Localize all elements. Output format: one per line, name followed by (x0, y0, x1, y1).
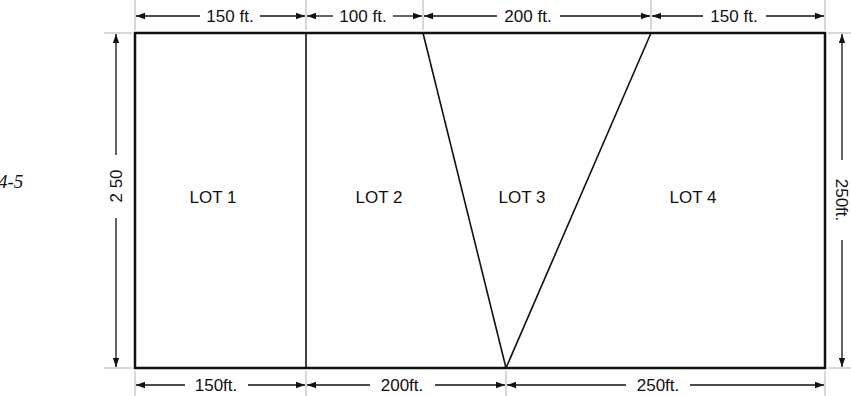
lot-3-label: LOT 3 (499, 188, 546, 207)
bottom-dimension-lot3-4: 250ft. (637, 376, 680, 395)
parcel-outline (135, 33, 825, 368)
lot-divider-2-3 (423, 33, 506, 368)
top-dimension-lot4: 150 ft. (710, 7, 757, 26)
figure-label: 4-5 (0, 171, 23, 192)
lot-plan-diagram: LOT 1 LOT 2 LOT 3 LOT 4 4-5 150 ft. 100 … (0, 0, 851, 396)
lot-2-label: LOT 2 (356, 188, 403, 207)
lot-1-label: LOT 1 (190, 188, 237, 207)
right-dimension: 250ft. (832, 179, 851, 222)
bottom-dimension-lot1: 150ft. (195, 376, 238, 395)
left-dimension: 2 50 (107, 169, 126, 202)
lot-4-label: LOT 4 (670, 188, 717, 207)
top-dimension-lot1: 150 ft. (206, 7, 253, 26)
top-dimension-lot3: 200 ft. (504, 7, 551, 26)
bottom-dimension-lot2: 200ft. (381, 376, 424, 395)
top-dimension-lot2: 100 ft. (339, 7, 386, 26)
